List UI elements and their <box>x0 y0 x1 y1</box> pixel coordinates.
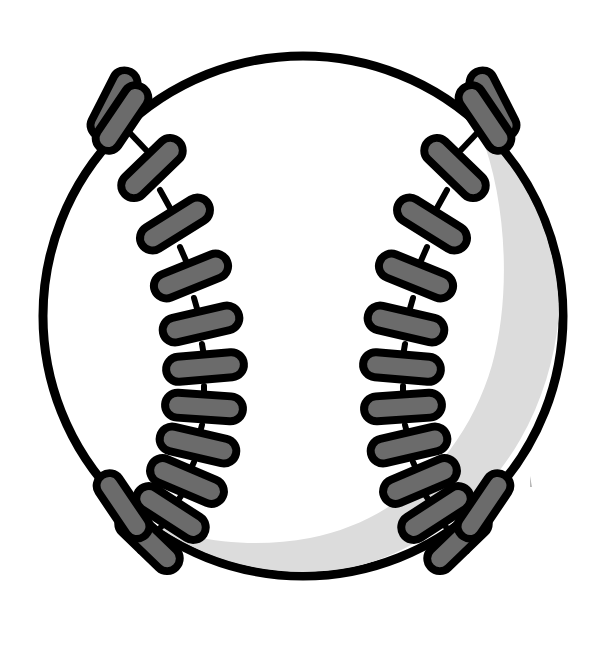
stitch <box>164 392 244 422</box>
stitch <box>165 351 245 383</box>
illustration-canvas <box>0 0 607 645</box>
stitch <box>362 351 442 383</box>
stitch <box>363 392 443 422</box>
baseball-illustration <box>0 0 607 645</box>
